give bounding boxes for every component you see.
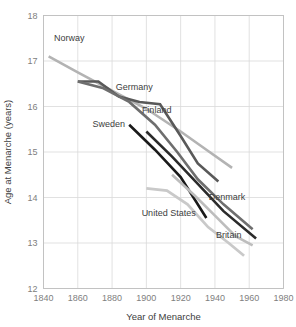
series-label-sweden: Sweden bbox=[92, 119, 125, 129]
series-label-denmark: Denmark bbox=[209, 192, 246, 202]
x-axis-title: Year of Menarche bbox=[126, 311, 201, 322]
series-label-finland: Finland bbox=[142, 105, 172, 115]
y-tick-label: 16 bbox=[27, 102, 37, 112]
x-tick-label: 1940 bbox=[205, 293, 225, 303]
x-tick-label: 1860 bbox=[68, 293, 88, 303]
y-tick-label: 18 bbox=[27, 11, 37, 21]
y-axis-tick-labels: 12131415161718 bbox=[27, 11, 37, 294]
x-tick-label: 1840 bbox=[33, 293, 53, 303]
y-tick-label: 14 bbox=[27, 193, 37, 203]
x-axis-tick-labels: 18401860188019001920194019601980 bbox=[33, 293, 293, 303]
menarche-age-line-chart: 18401860188019001920194019601980 1213141… bbox=[0, 0, 296, 327]
x-tick-label: 1900 bbox=[136, 293, 156, 303]
series-label-norway: Norway bbox=[54, 33, 85, 43]
chart-container: 18401860188019001920194019601980 1213141… bbox=[0, 0, 296, 327]
y-axis-title: Age at Menarche (years) bbox=[2, 100, 13, 205]
gridlines bbox=[44, 16, 284, 289]
y-tick-label: 13 bbox=[27, 238, 37, 248]
x-tick-label: 1920 bbox=[171, 293, 191, 303]
x-tick-label: 1960 bbox=[239, 293, 259, 303]
series-label-germany: Germany bbox=[116, 82, 154, 92]
y-tick-label: 12 bbox=[27, 284, 37, 294]
y-tick-label: 17 bbox=[27, 56, 37, 66]
series-label-britain: Britain bbox=[216, 230, 242, 240]
y-tick-label: 15 bbox=[27, 147, 37, 157]
x-tick-label: 1880 bbox=[102, 293, 122, 303]
x-tick-label: 1980 bbox=[273, 293, 293, 303]
series-label-united-states: United States bbox=[142, 208, 197, 218]
